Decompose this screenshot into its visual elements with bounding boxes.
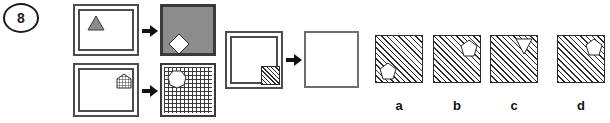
option-d-box[interactable] bbox=[557, 35, 605, 83]
example-1-arrow-icon bbox=[142, 25, 158, 37]
question-number-badge: 8 bbox=[3, 3, 39, 33]
triangle-down-icon bbox=[515, 38, 533, 55]
example-2-source-panel bbox=[73, 63, 139, 117]
pentagon-icon bbox=[460, 39, 478, 57]
option-b-box[interactable] bbox=[433, 35, 481, 83]
prompt-source-panel bbox=[225, 31, 283, 89]
option-d-label: d bbox=[571, 98, 591, 113]
example-2-arrow-icon bbox=[142, 85, 158, 97]
triangle-up-icon bbox=[87, 15, 105, 31]
prompt-answer-placeholder: ? bbox=[306, 33, 357, 86]
option-a-box[interactable] bbox=[375, 35, 423, 83]
question-number-label: 8 bbox=[17, 10, 25, 26]
option-b-label: b bbox=[447, 98, 467, 113]
example-1-source-panel bbox=[73, 4, 139, 56]
hatched-square-icon bbox=[261, 66, 280, 85]
pentagon-icon bbox=[585, 38, 603, 56]
heptagon-icon bbox=[167, 70, 187, 89]
example-2-source-inner bbox=[78, 68, 134, 112]
option-c-box[interactable] bbox=[490, 35, 538, 83]
example-1-target-panel bbox=[160, 4, 216, 56]
option-a-label: a bbox=[389, 98, 409, 113]
pentagon-grid-icon bbox=[116, 73, 132, 89]
prompt-arrow-icon bbox=[286, 54, 302, 66]
example-1-source-inner bbox=[78, 9, 134, 51]
pentagon-icon bbox=[379, 62, 397, 80]
puzzle-canvas: 8 bbox=[0, 0, 610, 123]
prompt-answer-blank-panel[interactable]: ? bbox=[304, 31, 359, 88]
example-2-target-panel bbox=[160, 63, 216, 117]
option-c-label: c bbox=[504, 98, 524, 113]
diamond-icon bbox=[168, 33, 190, 55]
prompt-source-inner bbox=[230, 36, 278, 84]
